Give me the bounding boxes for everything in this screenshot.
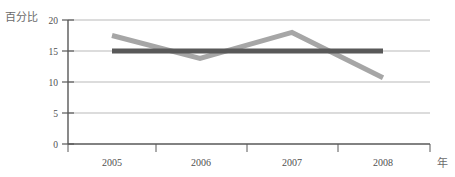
y-tick-label-10: 10 bbox=[49, 78, 59, 88]
y-tick-label-20: 20 bbox=[49, 16, 59, 26]
x-axis-title: 年 bbox=[437, 156, 448, 170]
chart-container: 20 15 10 5 0 2005 2006 2007 2008 百分比 年 bbox=[0, 0, 455, 177]
x-tick-label-2006: 2006 bbox=[191, 157, 211, 168]
y-tick-label-0: 0 bbox=[53, 140, 58, 150]
y-tick-label-5: 5 bbox=[53, 109, 58, 119]
y-tick-label-15: 15 bbox=[49, 47, 59, 57]
x-tick-label-2008: 2008 bbox=[373, 157, 393, 168]
y-axis-title: 百分比 bbox=[5, 11, 38, 24]
x-tick-label-2007: 2007 bbox=[282, 157, 302, 168]
x-tick-label-2005: 2005 bbox=[102, 157, 122, 168]
line-chart: 20 15 10 5 0 2005 2006 2007 2008 百分比 年 bbox=[0, 0, 455, 177]
